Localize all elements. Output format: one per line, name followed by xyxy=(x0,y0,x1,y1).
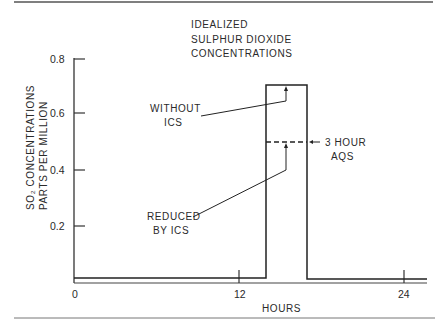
chart-title-line-1: IDEALIZED xyxy=(191,19,248,30)
chart-title-line-2: SULPHUR DIOXIDE xyxy=(191,34,292,45)
y-axis-label-line-2: PARTS PER MILLION xyxy=(38,101,49,210)
y-axis-label-line-1: SO₂ CONCENTRATIONS xyxy=(25,85,36,210)
chart-title-line-3: CONCENTRATIONS xyxy=(191,48,293,59)
so2-series-line xyxy=(74,85,427,279)
arrow-up-icon xyxy=(284,143,288,148)
annotation-reduced-line-2: BY ICS xyxy=(153,225,189,236)
annotation-without-line-1: WITHOUT xyxy=(150,103,201,114)
y-tick-label-0.4: 0.4 xyxy=(50,164,65,176)
y-tick-label-0.6: 0.6 xyxy=(50,107,65,119)
arrow-left-icon xyxy=(309,140,313,144)
annotation-aqs-line-1: 3 HOUR xyxy=(325,137,366,148)
annotation-aqs-line-2: AQS xyxy=(331,151,354,162)
y-tick-label-0.2: 0.2 xyxy=(50,220,65,232)
x-tick-label-12: 12 xyxy=(234,288,246,300)
chart: IDEALIZED SULPHUR DIOXIDE CONCENTRATIONS… xyxy=(0,0,448,331)
x-tick-label-0: 0 xyxy=(72,288,78,300)
y-tick-label-0.8: 0.8 xyxy=(50,53,65,65)
x-axis-label: HOURS xyxy=(262,303,301,314)
annotation-without-leader xyxy=(201,89,286,116)
annotation-reduced-line-1: REDUCED xyxy=(147,211,201,222)
x-tick-label-24: 24 xyxy=(398,288,410,300)
arrow-up-icon xyxy=(284,86,288,91)
annotation-without-line-2: ICS xyxy=(164,117,182,128)
annotation-reduced-leader xyxy=(193,147,286,217)
